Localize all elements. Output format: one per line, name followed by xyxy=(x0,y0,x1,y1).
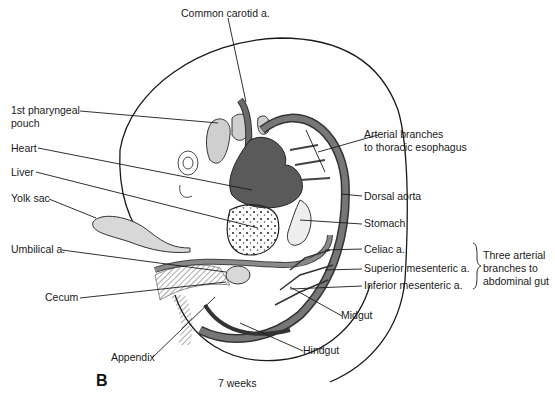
eye-region xyxy=(178,151,198,197)
label-group-line1: Three arterial xyxy=(483,249,545,262)
label-dorsal-aorta: Dorsal aorta xyxy=(364,190,421,203)
label-liver: Liver xyxy=(11,166,34,179)
label-arterial-branches-line1: Arterial branches xyxy=(364,128,443,141)
label-superior-mesenteric-artery: Superior mesenteric a. xyxy=(364,262,470,275)
liver xyxy=(227,205,279,255)
figure-caption: 7 weeks xyxy=(218,377,257,389)
stomach xyxy=(287,200,311,245)
label-pharyngeal-pouch-line2: pouch xyxy=(11,117,40,130)
label-inferior-mesenteric-artery: Inferior mesenteric a. xyxy=(364,279,463,292)
label-cecum: Cecum xyxy=(45,291,78,304)
label-heart: Heart xyxy=(11,142,37,155)
group-brace xyxy=(473,243,481,289)
label-group-line2: branches to xyxy=(483,262,538,275)
label-hindgut: Hindgut xyxy=(303,344,339,357)
embryo-illustration xyxy=(0,0,555,395)
label-group-line3: abdominal gut xyxy=(483,275,549,288)
label-celiac-artery: Celiac a. xyxy=(364,243,405,256)
cecum xyxy=(226,266,250,284)
yolk-sac xyxy=(93,216,190,252)
label-umbilical-artery: Umbilical a. xyxy=(11,243,65,256)
label-arterial-branches-line2: to thoracic esophagus xyxy=(364,141,467,154)
label-midgut: Midgut xyxy=(341,309,373,322)
label-common-carotid: Common carotid a. xyxy=(181,7,270,20)
heart xyxy=(230,137,303,207)
panel-letter: B xyxy=(96,372,108,390)
label-yolk-sac: Yolk sac xyxy=(11,192,50,205)
label-pharyngeal-pouch-line1: 1st pharyngeal xyxy=(11,104,80,117)
label-appendix: Appendix xyxy=(111,351,155,364)
embryo-arterial-supply-diagram: Common carotid a. 1st pharyngeal pouch H… xyxy=(0,0,555,395)
label-stomach: Stomach xyxy=(364,217,405,230)
